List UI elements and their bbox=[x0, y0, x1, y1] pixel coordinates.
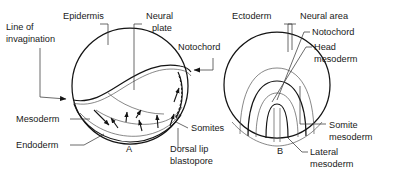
leader-neural-plate bbox=[134, 24, 142, 90]
leader-line-of-invagination bbox=[40, 48, 66, 99]
neural-plate-horseshoe bbox=[248, 81, 306, 136]
label-head-mesoderm: Head mesoderm bbox=[314, 42, 358, 64]
flow-arrow-1 bbox=[94, 110, 109, 125]
flow-arrow-5 bbox=[139, 120, 142, 131]
label-neural-plate: Neural plate bbox=[146, 11, 176, 33]
label-mesoderm: Mesoderm bbox=[16, 114, 60, 124]
mesoderm-sheet-upper bbox=[107, 92, 164, 114]
leader-head-mesoderm bbox=[272, 47, 312, 102]
figure-canvas: Line of invagination Epidermis Neural pl… bbox=[0, 0, 402, 180]
leader-notochord-b bbox=[277, 32, 310, 100]
panel-letter-a: A bbox=[126, 144, 133, 154]
label-endoderm: Endoderm bbox=[16, 140, 59, 150]
label-epidermis: Epidermis bbox=[63, 11, 104, 21]
label-ectoderm: Ectoderm bbox=[232, 11, 272, 21]
leader-lateral-mesoderm bbox=[288, 138, 308, 152]
panel-letter-b: B bbox=[277, 146, 283, 156]
label-line-of-invagination: Line of invagination bbox=[6, 22, 55, 44]
flow-arrow-6 bbox=[157, 115, 158, 128]
label-neural-area: Neural area bbox=[300, 11, 349, 21]
flow-arrow-8 bbox=[174, 88, 179, 102]
ventral-arc-b bbox=[232, 122, 322, 146]
label-dorsal-lip-blastopore: Dorsal lip blastopore bbox=[170, 144, 213, 166]
invagination-s-curve bbox=[73, 65, 191, 101]
leader-notochord-a bbox=[194, 58, 213, 70]
embryo-gastrulation-figure: Line of invagination Epidermis Neural pl… bbox=[0, 0, 402, 180]
label-notochord-b: Notochord bbox=[312, 27, 354, 37]
flow-arrow-4 bbox=[136, 110, 141, 118]
flow-arrow-3 bbox=[126, 112, 127, 122]
label-notochord-a: Notochord bbox=[178, 42, 220, 52]
labels-layer: Line of invagination Epidermis Neural pl… bbox=[6, 11, 373, 169]
label-lateral-mesoderm: Lateral mesoderm bbox=[310, 147, 354, 169]
leader-somites bbox=[176, 122, 188, 128]
label-somites: Somites bbox=[191, 123, 225, 133]
notochord-horseshoe bbox=[266, 104, 288, 138]
label-somite-mesoderm: Somite mesoderm bbox=[329, 120, 373, 142]
